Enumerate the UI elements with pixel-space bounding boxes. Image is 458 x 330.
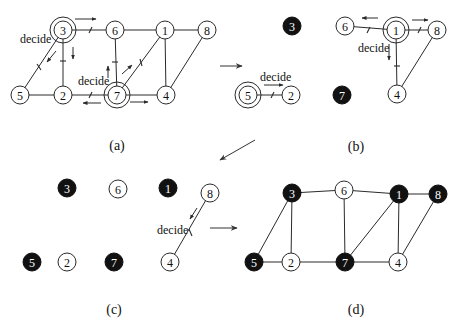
svg-text:6: 6 <box>342 20 348 34</box>
node-b-1: 1 <box>383 17 409 43</box>
edge-b-8-4 <box>397 30 437 94</box>
svg-text:8: 8 <box>434 24 440 38</box>
node-d-8: 8 <box>429 185 447 203</box>
node-d-7: 7 <box>336 253 354 271</box>
message-arrow-icon <box>122 65 132 74</box>
svg-text:7: 7 <box>342 256 348 270</box>
node-a-6: 6 <box>106 21 124 39</box>
svg-text:1: 1 <box>162 24 168 38</box>
svg-text:4: 4 <box>163 89 169 103</box>
svg-text:1: 1 <box>165 182 171 196</box>
edge-d-8-4 <box>398 194 438 262</box>
svg-text:2: 2 <box>288 89 294 103</box>
node-c-3: 3 <box>58 179 76 197</box>
edge-a-1-4 <box>165 30 166 95</box>
svg-text:4: 4 <box>395 256 401 270</box>
node-a-4: 4 <box>157 86 175 104</box>
decide-label: decide <box>78 74 109 88</box>
node-d-2: 2 <box>282 253 300 271</box>
svg-text:5: 5 <box>29 256 35 270</box>
svg-text:3: 3 <box>60 24 66 38</box>
node-b-3: 3 <box>283 17 301 35</box>
node-b-7: 7 <box>333 86 351 104</box>
node-c-7: 7 <box>105 253 123 271</box>
caption-b: (b) <box>348 139 365 155</box>
caption-c: (c) <box>106 302 122 318</box>
down-left-arrow-icon <box>220 140 255 160</box>
node-b-4: 4 <box>388 85 406 103</box>
svg-text:4: 4 <box>167 256 173 270</box>
node-a-3: 3 <box>50 17 76 43</box>
node-a-8: 8 <box>198 21 216 39</box>
svg-text:8: 8 <box>435 188 441 202</box>
node-a-2: 2 <box>54 86 72 104</box>
caption-a: (a) <box>109 138 125 154</box>
edge-a-8-4 <box>166 30 207 95</box>
node-c-4: 4 <box>161 253 179 271</box>
decide-label: decide <box>260 70 291 84</box>
edge-d-3-2 <box>291 193 292 262</box>
svg-text:1: 1 <box>393 24 399 38</box>
node-d-3: 3 <box>283 184 301 202</box>
svg-text:5: 5 <box>245 89 251 103</box>
caption-d: (d) <box>348 302 365 318</box>
svg-text:7: 7 <box>111 256 117 270</box>
decide-label: decide <box>358 41 389 55</box>
node-d-1: 1 <box>390 185 408 203</box>
graph-figure: 36185274361852743618527436185274 decided… <box>0 0 458 330</box>
decide-label: decide <box>20 32 51 46</box>
node-b-5: 5 <box>235 82 261 108</box>
node-c-1: 1 <box>159 179 177 197</box>
edge-a-7-1 <box>117 30 165 95</box>
svg-text:5: 5 <box>17 89 23 103</box>
svg-text:6: 6 <box>341 184 347 198</box>
node-c-8: 8 <box>201 184 219 202</box>
edge-d-7-6 <box>344 190 345 262</box>
svg-text:3: 3 <box>289 20 295 34</box>
node-b-2: 2 <box>282 86 300 104</box>
svg-text:6: 6 <box>115 183 121 197</box>
edge-d-7-1 <box>345 194 399 262</box>
node-b-6: 6 <box>336 17 354 35</box>
svg-text:7: 7 <box>339 89 345 103</box>
svg-text:6: 6 <box>112 24 118 38</box>
node-c-6: 6 <box>109 180 127 198</box>
svg-text:3: 3 <box>64 182 70 196</box>
svg-text:5: 5 <box>251 256 257 270</box>
svg-text:8: 8 <box>207 187 213 201</box>
edge-d-1-4 <box>398 194 399 262</box>
node-c-5: 5 <box>23 253 41 271</box>
edge-b-1-4 <box>396 30 397 94</box>
svg-text:2: 2 <box>60 89 66 103</box>
svg-text:3: 3 <box>289 187 295 201</box>
decide-label: decide <box>157 223 188 237</box>
node-b-8: 8 <box>428 21 446 39</box>
distributed-mis-figure: 36185274361852743618527436185274 decided… <box>0 0 458 330</box>
node-a-1: 1 <box>156 21 174 39</box>
svg-text:4: 4 <box>394 88 400 102</box>
svg-text:2: 2 <box>288 256 294 270</box>
edge-d-3-5 <box>254 193 292 262</box>
svg-text:2: 2 <box>64 256 70 270</box>
svg-text:1: 1 <box>396 188 402 202</box>
svg-text:8: 8 <box>204 24 210 38</box>
node-d-6: 6 <box>335 181 353 199</box>
node-d-4: 4 <box>389 253 407 271</box>
node-a-5: 5 <box>11 86 29 104</box>
node-c-2: 2 <box>58 253 76 271</box>
node-d-5: 5 <box>245 253 263 271</box>
svg-text:7: 7 <box>114 89 120 103</box>
